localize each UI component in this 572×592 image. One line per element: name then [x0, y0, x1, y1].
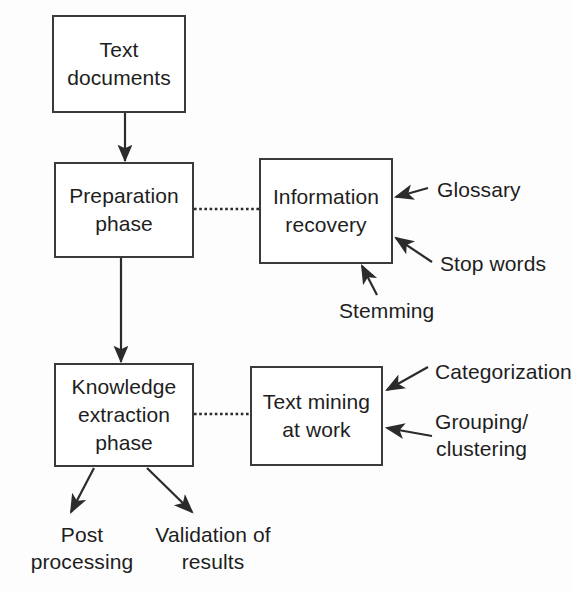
node-text-documents-label: Text documents [63, 36, 175, 91]
node-knowledge-extraction-phase-label: Knowledge extraction phase [68, 373, 181, 456]
node-text-mining-at-work[interactable]: Text mining at work [250, 366, 383, 466]
connector-categorization-arrow [387, 367, 428, 390]
node-information-recovery-label: Information recovery [269, 183, 383, 238]
annotation-stemming: Stemming [339, 297, 434, 324]
node-text-mining-at-work-label: Text mining at work [259, 388, 374, 443]
connector-stop-words-arrow [396, 238, 432, 262]
connector-stemming-arrow [362, 266, 377, 295]
node-preparation-phase[interactable]: Preparation phase [54, 162, 194, 258]
node-text-documents[interactable]: Text documents [52, 15, 186, 113]
node-information-recovery[interactable]: Information recovery [259, 158, 393, 264]
node-knowledge-extraction-phase[interactable]: Knowledge extraction phase [54, 363, 194, 467]
annotation-categorization: Categorization [435, 358, 572, 385]
connector-glossary-arrow [396, 188, 428, 197]
annotation-stop-words: Stop words [440, 250, 546, 277]
connector-validation-arrow [147, 468, 192, 512]
annotation-grouping-clustering: Grouping/ clustering [435, 408, 528, 463]
annotation-post-processing: Post processing [27, 521, 137, 576]
annotation-validation-of-results: Validation of results [143, 521, 283, 576]
connector-post-processing-arrow [71, 468, 94, 512]
connector-grouping-clustering-arrow [387, 428, 432, 436]
node-preparation-phase-label: Preparation phase [65, 182, 183, 237]
flowchart-diagram: Text documents Preparation phase Informa… [0, 0, 572, 592]
annotation-glossary: Glossary [437, 176, 521, 203]
